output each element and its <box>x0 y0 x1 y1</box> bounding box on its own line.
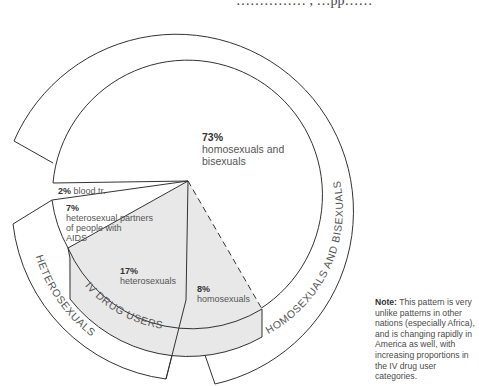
footnote: Note: This pattern is very unlike patter… <box>375 297 475 382</box>
segment-label-homosexuals-bisexuals: 73% homosexuals and bisexuals <box>202 131 284 167</box>
segment-label-hetero-partners: 7% heterosexual partners of people with … <box>66 203 153 243</box>
segment-label-blood: 2% blood tr. <box>58 186 106 196</box>
segment-label-ivdu-homosexuals: 8% homosexuals <box>197 284 250 304</box>
note-text: This pattern is very unlike patterns in … <box>375 297 475 381</box>
segment-label-ivdu-heterosexuals: 17% heterosexuals <box>120 266 176 286</box>
note-label: Note: <box>375 297 397 307</box>
ring-label-homosexuals-bisexuals: HOMOSEXUALS AND BISEXUALS <box>263 180 345 336</box>
